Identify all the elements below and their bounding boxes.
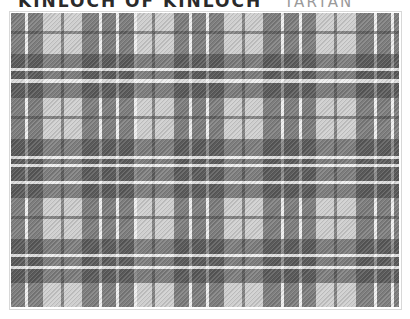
horizontal-stripe — [11, 216, 399, 219]
horizontal-stripe — [11, 31, 399, 34]
horizontal-stripe — [11, 184, 399, 198]
horizontal-stripe — [11, 269, 399, 283]
horizontal-stripe — [11, 83, 399, 98]
tartan-frame — [9, 11, 402, 310]
tartan-pattern — [11, 13, 399, 307]
horizontal-stripe — [11, 257, 399, 266]
subtitle-text: TARTAN — [284, 0, 353, 11]
horizontal-stripe — [11, 116, 399, 119]
horizontal-stripe — [11, 71, 399, 79]
title-text: KINLOCH OF KINLOCH — [18, 0, 262, 11]
horizontal-stripe — [11, 239, 399, 254]
page-title: KINLOCH OF KINLOCHTARTAN — [18, 0, 410, 11]
horizontal-stripe — [11, 167, 399, 181]
horizontal-stripe — [11, 54, 399, 68]
horizontal-stripe — [11, 139, 399, 156]
